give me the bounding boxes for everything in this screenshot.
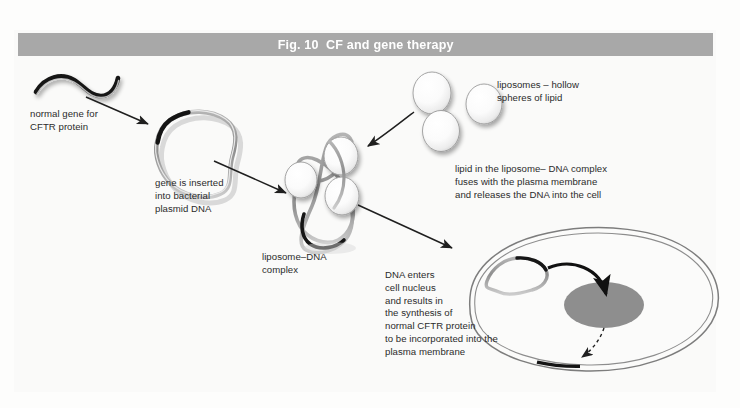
arrow-liposomes-to-complex (368, 112, 414, 146)
label-dna-enters-nucleus: DNA enters cell nucleus and results in t… (385, 269, 498, 359)
normal-cftr-gene-strand (36, 76, 119, 97)
arrow-complex-to-cell (358, 205, 452, 248)
label-gene-inserted-plasmid: gene is inserted into bacterial plasmid … (155, 177, 224, 215)
label-lipid-fusion: lipid in the liposome– DNA complex fuses… (455, 163, 607, 201)
liposome-sphere (413, 72, 451, 114)
complex-liposome-sphere (285, 162, 317, 198)
label-normal-gene: normal gene for CFTR protein (30, 108, 98, 134)
free-liposomes-group (413, 72, 502, 152)
diagram-canvas (0, 0, 740, 408)
label-liposomes: liposomes – hollow spheres of lipid (497, 79, 579, 105)
liposome-dna-complex (285, 134, 359, 254)
figure-page: Fig. 10 CF and gene therapy (0, 0, 740, 408)
target-cell (470, 228, 719, 371)
label-liposome-dna-complex: liposome–DNA complex (262, 251, 327, 277)
liposome-sphere (423, 111, 460, 152)
